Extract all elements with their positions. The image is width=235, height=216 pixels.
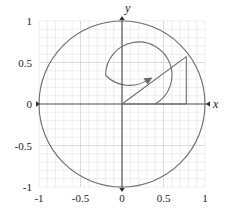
triangle-hypotenuse — [122, 57, 186, 104]
x-tick-label--1: -1 — [34, 193, 43, 204]
y-axis-label: y — [125, 2, 130, 14]
y-axis-top-arrow — [119, 16, 125, 20]
y-tick-label-1: 1 — [2, 16, 32, 27]
y-tick-label-0: 0 — [2, 99, 32, 110]
unit-circle-figure: -1 -0.5 0 0.5 1 1 0.5 0 -0.5 -1 x y — [0, 0, 235, 216]
x-axis-right-arrow — [206, 101, 210, 107]
x-tick-label-0-5: 0.5 — [157, 193, 171, 204]
unit-circle-plot — [0, 0, 235, 216]
x-axis-label: x — [213, 98, 218, 110]
y-tick-label-0-5: 0.5 — [2, 57, 32, 68]
x-tick-label-0: 0 — [119, 193, 125, 204]
reference-triangle — [122, 57, 186, 104]
y-tick-label--0-5: -0.5 — [2, 140, 32, 151]
y-tick-label--1: -1 — [2, 182, 32, 193]
x-tick-label--0-5: -0.5 — [72, 193, 89, 204]
x-tick-label-1: 1 — [202, 193, 208, 204]
